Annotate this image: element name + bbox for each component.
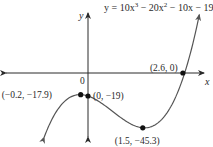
key-points: (−0.2, −17.9)(0, −19)(1.5, −45.3)(2.6, 0…	[2, 63, 186, 147]
point-label-x-intercept: (2.6, 0)	[150, 63, 178, 74]
equation-label: y = 10x3 − 20x2 − 10x − 19	[104, 1, 213, 13]
y-axis-label: y	[78, 10, 84, 21]
cubic-curve	[44, 15, 199, 138]
cubic-function-graph: x y 0 y = 10x3 − 20x2 − 10x − 19 (−0.2, …	[0, 0, 213, 147]
point-local-maximum	[78, 92, 83, 97]
x-axis: x	[6, 73, 210, 87]
origin-label: 0	[80, 76, 85, 86]
point-local-minimum	[140, 125, 145, 130]
point-label-y-intercept: (0, −19)	[93, 91, 124, 102]
point-label-local-maximum: (−0.2, −17.9)	[2, 90, 52, 101]
chart-canvas: x y 0 y = 10x3 − 20x2 − 10x − 19 (−0.2, …	[0, 0, 213, 147]
x-axis-label: x	[204, 76, 210, 87]
point-y-intercept	[85, 93, 90, 98]
point-label-local-minimum: (1.5, −45.3)	[115, 136, 160, 147]
point-x-intercept	[180, 70, 185, 75]
equation-annotation: y = 10x3 − 20x2 − 10x − 19	[104, 1, 213, 13]
